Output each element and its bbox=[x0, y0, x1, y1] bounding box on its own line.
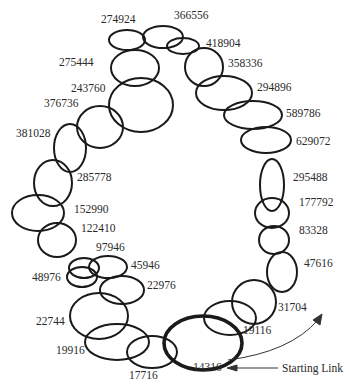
link-label-83328: 83328 bbox=[299, 225, 328, 237]
link-label-122410: 122410 bbox=[81, 223, 116, 235]
link-label-358336: 358336 bbox=[228, 58, 263, 70]
link-ellipse-589786 bbox=[224, 101, 282, 129]
link-ellipse-629072 bbox=[241, 127, 291, 153]
link-label-14316: 14316 bbox=[193, 362, 222, 374]
chain-diagram bbox=[0, 0, 349, 390]
link-label-97946: 97946 bbox=[96, 242, 125, 254]
link-label-48976: 48976 bbox=[32, 272, 61, 284]
starting-link-label: Starting Link bbox=[282, 363, 343, 375]
link-label-47616: 47616 bbox=[304, 258, 333, 270]
link-label-275444: 275444 bbox=[59, 57, 94, 69]
link-ellipse-19916 bbox=[85, 324, 149, 360]
link-label-274924: 274924 bbox=[101, 14, 136, 26]
link-label-418904: 418904 bbox=[206, 38, 241, 50]
link-ellipse-22976 bbox=[100, 276, 144, 304]
link-ellipse-17716 bbox=[127, 336, 177, 368]
link-ellipse-152990 bbox=[12, 195, 64, 231]
link-ellipse-294896 bbox=[196, 76, 252, 110]
link-ellipse-177792 bbox=[255, 198, 289, 228]
link-label-45946: 45946 bbox=[131, 260, 160, 272]
link-label-295488: 295488 bbox=[293, 172, 328, 184]
link-label-17716: 17716 bbox=[129, 370, 158, 382]
link-ellipse-22744 bbox=[70, 293, 128, 339]
link-label-22976: 22976 bbox=[147, 280, 176, 292]
link-label-589786: 589786 bbox=[286, 108, 321, 120]
link-ellipse-381028 bbox=[54, 124, 86, 172]
link-label-629072: 629072 bbox=[296, 136, 331, 148]
link-label-381028: 381028 bbox=[16, 128, 51, 140]
link-ellipse-45946 bbox=[89, 256, 127, 278]
link-ellipse-376736 bbox=[77, 106, 123, 148]
link-label-22744: 22744 bbox=[36, 316, 65, 328]
link-label-294896: 294896 bbox=[257, 82, 292, 94]
link-label-177792: 177792 bbox=[299, 197, 334, 209]
link-ellipse-47616 bbox=[267, 252, 297, 292]
link-label-31704: 31704 bbox=[278, 302, 307, 314]
link-ellipse-366556 bbox=[143, 26, 183, 48]
link-label-19916: 19916 bbox=[56, 345, 85, 357]
link-ellipse-274924 bbox=[109, 30, 145, 50]
link-label-376736: 376736 bbox=[44, 98, 79, 110]
link-ellipse-122410 bbox=[38, 223, 76, 257]
arrowhead-left-icon bbox=[227, 365, 237, 371]
link-ellipse-275444 bbox=[111, 50, 159, 86]
link-ellipse-83328 bbox=[259, 226, 289, 254]
link-ellipse-295488 bbox=[260, 159, 284, 211]
link-label-366556: 366556 bbox=[174, 10, 209, 22]
link-label-152990: 152990 bbox=[74, 204, 109, 216]
link-label-19116: 19116 bbox=[243, 325, 271, 337]
link-label-285778: 285778 bbox=[77, 172, 112, 184]
link-label-243760: 243760 bbox=[71, 83, 106, 95]
